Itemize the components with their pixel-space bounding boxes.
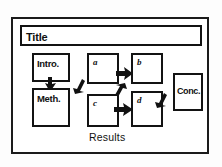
result-panel-d-label: d bbox=[137, 96, 142, 105]
conclusion-label: Conc. bbox=[177, 87, 200, 96]
title-label: Title bbox=[26, 32, 47, 43]
conclusion-box[interactable]: Conc. bbox=[173, 73, 203, 111]
method-label: Meth. bbox=[37, 94, 60, 104]
result-panel-d[interactable]: d bbox=[131, 91, 163, 127]
intro-label: Intro. bbox=[37, 59, 59, 69]
method-box[interactable]: Meth. bbox=[32, 88, 70, 127]
intro-box[interactable]: Intro. bbox=[32, 53, 70, 82]
result-panel-a-label: a bbox=[93, 58, 98, 67]
title-box[interactable]: Title bbox=[20, 25, 202, 46]
diagram-canvas: Title Intro. Meth. a b bbox=[0, 0, 222, 167]
result-panel-a[interactable]: a bbox=[87, 53, 119, 84]
poster-frame: Title Intro. Meth. a b bbox=[11, 17, 209, 154]
results-caption: Results bbox=[89, 131, 125, 143]
result-panel-b[interactable]: b bbox=[131, 53, 163, 84]
result-panel-b-label: b bbox=[137, 58, 142, 67]
result-panel-c[interactable]: c bbox=[87, 94, 119, 127]
result-panel-c-label: c bbox=[93, 99, 97, 108]
arrow-method-to-results bbox=[73, 79, 87, 95]
